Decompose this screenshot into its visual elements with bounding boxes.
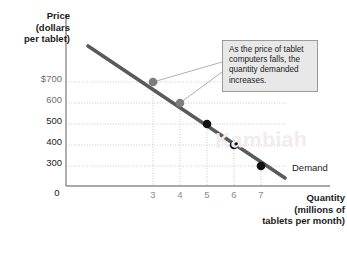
origin-label: 0 [50,187,64,198]
leader-line-to-point-4 [180,72,222,103]
x-tick-label-7: 7 [254,189,268,200]
x-tick-label-6: 6 [227,189,241,200]
data-point-4-600 [176,99,185,108]
leader-line-to-point-3 [153,62,222,82]
y-tick-label-400: 400 [18,136,62,147]
background-watermark: Kambiah [215,127,308,153]
y-axis-title: Price (dollars per tablet) [2,10,70,45]
data-point-7-300 [257,162,266,171]
y-tick-label-500: 500 [18,115,62,126]
data-point-3-700 [149,78,158,87]
demand-curve-label: Demand [292,162,328,173]
annotation-callout: As the price of tablet computers falls, … [222,40,318,92]
y-tick-label-600: 600 [18,94,62,105]
demand-curve-figure: Kambiah Price (dollars per tablet) Quant… [0,0,347,262]
y-tick-label-300: 300 [18,157,62,168]
horizontal-gridlines [66,82,286,166]
data-point-5-500 [203,120,212,129]
x-tick-label-4: 4 [173,189,187,200]
x-tick-label-5: 5 [200,189,214,200]
y-tick-label-700: $700 [18,73,62,84]
x-tick-label-3: 3 [146,189,160,200]
